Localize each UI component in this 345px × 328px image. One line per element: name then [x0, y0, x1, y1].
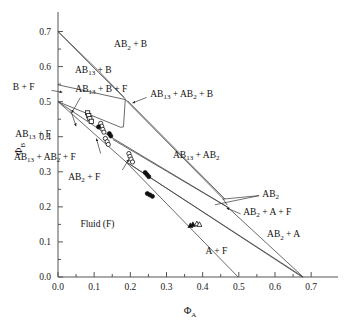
x-tick-label: 0.0 [52, 282, 64, 292]
region-label-ab13-ab2: AB13 + AB2 [173, 150, 220, 162]
x-tick-label: 0.1 [88, 282, 100, 292]
region-label-ab2-f: AB2 + F [68, 172, 100, 184]
phase-line-ab2-a-f-lower [127, 163, 303, 277]
x-axis-title: ΦA [184, 305, 197, 319]
data-points [86, 111, 202, 228]
data-point-circle-open [106, 142, 110, 146]
leader-ab13ab2f-leader [96, 138, 100, 153]
x-tick-label: 0.6 [269, 282, 281, 292]
phase-line-a-f-boundary [125, 161, 238, 277]
leader-ab2-leader-a [223, 196, 260, 200]
data-point-circle-open [130, 160, 134, 164]
y-tick-label: 0.3 [39, 167, 51, 177]
phase-line-ab13ab2-band-upper [125, 100, 222, 199]
y-tick-label: 0.6 [39, 62, 51, 72]
data-point-circle-filled [109, 134, 113, 138]
region-label-ab2: AB2 [262, 189, 279, 201]
region-label-ab2-a-f: AB2 + A + F [243, 207, 291, 219]
y-tick-label: 0.2 [39, 202, 51, 212]
y-tick-label: 0.7 [39, 27, 51, 37]
x-tick-label: 0.2 [124, 282, 136, 292]
phase-line-ab2-corner-line [227, 207, 303, 277]
axes: 0.00.10.20.30.40.50.60.70.00.10.20.30.40… [39, 12, 338, 292]
leader-ab2f-leader [122, 159, 129, 170]
region-label-fluid-f: Fluid (F) [80, 219, 114, 230]
leader-bf-leader [51, 90, 62, 92]
x-tick-label: 0.5 [233, 282, 245, 292]
region-labels: AB2 + BAB13 + BB + FAB13 + B + FAB13 + A… [13, 39, 301, 256]
region-label-ab13-ab2-b: AB13 + AB2 + B [150, 89, 213, 101]
region-label-ab2-a: AB2 + A [267, 229, 300, 241]
phase-diagram-plot: 0.00.10.20.30.40.50.60.70.00.10.20.30.40… [0, 0, 345, 328]
data-point-circle-filled [150, 194, 154, 198]
region-label-ab2-b: AB2 + B [114, 39, 147, 51]
x-tick-label: 0.3 [161, 282, 173, 292]
phase-diagram-figure: 0.00.10.20.30.40.50.60.70.00.10.20.30.40… [0, 0, 345, 328]
region-label-b-f: B + F [13, 82, 35, 92]
x-tick-label: 0.4 [197, 282, 209, 292]
data-point-circle-open [102, 130, 106, 134]
data-point-circle-filled [147, 175, 151, 179]
phase-line-ab13-tieline-vert [123, 100, 125, 127]
region-label-ab13-b: AB13 + B [75, 65, 112, 77]
y-tick-label: 0.5 [39, 97, 51, 107]
x-tick-label: 0.7 [305, 282, 317, 292]
label-leader-lines [51, 90, 259, 213]
leader-ab13ab2b-leader [132, 97, 146, 103]
data-point-square-open [89, 119, 93, 123]
y-tick-label: 0.0 [39, 272, 51, 282]
region-label-a-f: A + F [206, 246, 228, 256]
data-point-circle-filled [96, 125, 100, 129]
y-tick-label: 0.1 [39, 237, 51, 247]
